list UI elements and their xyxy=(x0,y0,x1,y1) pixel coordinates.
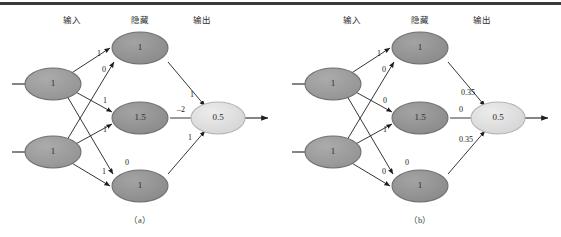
panel-a: 输入 隐藏 输出 1 1 1 xyxy=(12,15,268,225)
panel-b-hidden-node-bottom-value: 1 xyxy=(418,180,423,190)
panel-b-hidden-node-middle-value: 1.5 xyxy=(414,112,426,122)
panel-a-output-node-value: 0.5 xyxy=(212,112,224,122)
panel-a-weight-hid-top-out: 1 xyxy=(190,90,194,99)
panel-b-output-node-value: 0.5 xyxy=(492,112,504,122)
panel-b-weight-in-bot-hid-top: 0 xyxy=(382,65,386,74)
panel-b-header-hidden: 隐藏 xyxy=(411,15,429,25)
panel-b-weight-in-bot-hid-bot: 0 xyxy=(405,158,409,167)
panel-b-weight-hid-top-out: 0.35 xyxy=(461,88,475,97)
panel-a-weight-in-top-hid-mid: 1 xyxy=(103,96,107,105)
panel-a-input-node-top-value: 1 xyxy=(51,78,56,88)
panel-b-weight-in-top-hid-mid: 0 xyxy=(383,96,387,105)
panel-b-header-input: 输入 xyxy=(343,15,361,25)
panel-b-weight-in-top-hid-bot: 1 xyxy=(383,125,387,134)
panel-a-hidden-node-top-value: 1 xyxy=(138,42,143,52)
panel-a-header-hidden: 隐藏 xyxy=(131,15,149,25)
panel-b-hidden-node-top-value: 1 xyxy=(418,42,423,52)
panel-b-weight-hid-bot-out: 0.35 xyxy=(459,135,473,144)
panel-b-edge-hid-top-to-out xyxy=(448,62,485,106)
panel-a-weight-hid-bot-out: 1 xyxy=(188,133,192,142)
panel-a-weight-in-top-hid-top: 1 xyxy=(97,49,101,58)
figure-canvas: 输入 隐藏 输出 1 1 1 xyxy=(0,0,561,237)
panel-a-hidden-node-middle-value: 1.5 xyxy=(134,112,146,122)
panel-b-weight-hid-mid-out: 0 xyxy=(459,105,463,114)
panel-a-header-input: 输入 xyxy=(63,15,81,25)
neural-network-figure: 输入 隐藏 输出 1 1 1 xyxy=(0,0,561,237)
panel-a-edge-hid-bot-to-out xyxy=(168,131,205,174)
panel-a-weight-in-bot-hid-mid: 1 xyxy=(102,167,106,176)
panel-b-caption: （b） xyxy=(409,215,431,225)
panel-b: 输入 隐藏 输出 1 1 1 xyxy=(292,15,548,225)
panel-a-edge-hid-top-to-out xyxy=(168,62,205,106)
panel-b-header-output: 输出 xyxy=(473,15,491,25)
panel-a-header-output: 输出 xyxy=(193,15,211,25)
panel-a-weight-in-bot-hid-bot: 0 xyxy=(125,158,129,167)
panel-a-weight-hid-mid-out: –2 xyxy=(176,105,185,114)
panel-b-input-node-bottom-value: 1 xyxy=(331,146,336,156)
panel-a-hidden-node-bottom-value: 1 xyxy=(138,180,143,190)
panel-a-input-node-bottom-value: 1 xyxy=(51,146,56,156)
panel-a-weight-in-top-hid-bot: 1 xyxy=(103,125,107,134)
panel-b-input-node-top-value: 1 xyxy=(331,78,336,88)
panel-b-weight-in-top-hid-top: 1 xyxy=(377,49,381,58)
panel-a-caption: （a） xyxy=(129,215,151,225)
panel-a-weight-in-bot-hid-top: 0 xyxy=(102,65,106,74)
panel-b-weight-in-bot-hid-mid: 0 xyxy=(382,167,386,176)
